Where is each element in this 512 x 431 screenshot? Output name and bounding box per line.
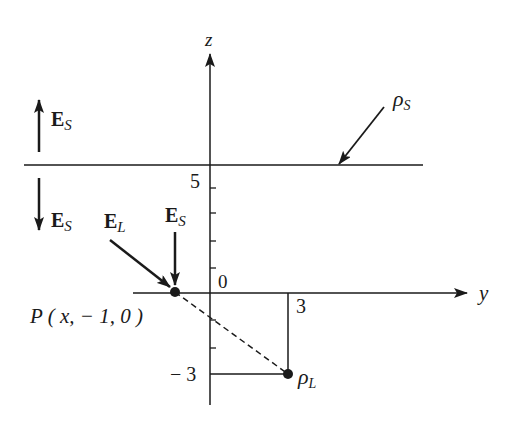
origin-label: 0 [218,271,228,292]
el-main: E [104,210,117,232]
el-label: EL [104,210,126,235]
es-above-main: E [51,108,64,130]
es-above-sub: S [64,117,72,133]
es-point-main: E [165,204,178,226]
z-tick-label-neg3: − 3 [170,363,196,385]
plane-charge-subscript: S [404,98,411,113]
plane-charge-label: ρS [392,86,411,113]
el-arrow-icon [110,240,170,287]
z-axis-ticks [210,188,216,348]
y-tick-label-3: 3 [296,295,306,317]
field-diagram: z y 0 5 − 3 3 ρS ρL P ( x, − 1, 0 ) ES E… [0,0,512,431]
line-charge-label: ρL [297,364,317,391]
point-p [170,287,180,297]
y-axis-label: y [477,281,489,305]
diagram-canvas: z y 0 5 − 3 3 ρS ρL P ( x, − 1, 0 ) ES E… [0,0,512,431]
line-charge-symbol: ρ [297,364,309,389]
distance-dashed-line [175,292,288,374]
plane-pointer-arrow-icon [339,107,384,164]
el-sub: L [116,219,125,235]
point-p-label: P ( x, − 1, 0 ) [29,304,143,328]
plane-charge-symbol: ρ [392,86,404,111]
es-point-label: ES [165,204,186,229]
es-above-label: ES [51,108,72,133]
line-charge-subscript: L [308,376,317,391]
es-below-main: E [51,209,64,231]
z-axis-label: z [204,29,213,50]
es-below-sub: S [64,218,72,234]
es-point-sub: S [178,213,186,229]
z-tick-label-5: 5 [190,170,200,192]
line-charge-point [283,369,293,379]
es-below-label: ES [51,209,72,234]
